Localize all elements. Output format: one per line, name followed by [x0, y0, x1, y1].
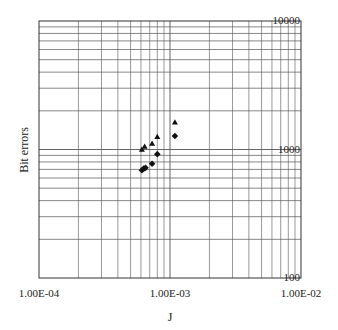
y-tick-label: 100 [284, 271, 301, 283]
data-markers [139, 119, 179, 173]
y-axis-title: Bit errors [17, 127, 31, 173]
y-tick-label: 10000 [273, 14, 301, 26]
triangle-marker [142, 143, 148, 148]
y-tick-label: 1000 [278, 143, 301, 155]
x-tick-label: 1.00E-02 [281, 287, 322, 299]
triangle-marker [154, 134, 160, 139]
diamond-marker [172, 133, 179, 140]
chart: 1.00E-041.00E-031.00E-02100100010000 J B… [0, 0, 338, 330]
diamond-marker [154, 151, 161, 158]
log-log-scatter-plot: 1.00E-041.00E-031.00E-02100100010000 J B… [0, 0, 338, 330]
x-tick-label: 1.00E-04 [19, 287, 60, 299]
x-axis-title: J [168, 310, 173, 324]
triangle-marker [172, 119, 178, 124]
grid-lines [39, 21, 301, 278]
x-tick-label: 1.00E-03 [150, 287, 191, 299]
